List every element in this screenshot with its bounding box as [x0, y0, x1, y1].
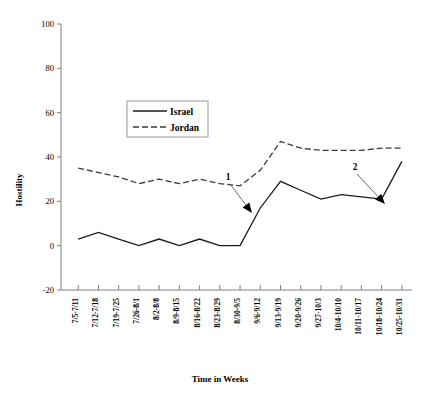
annotation-label: 1: [226, 172, 231, 182]
x-tick-label: 7/5-7/11: [71, 298, 80, 324]
x-tick-label: 8/2-8/8: [152, 298, 161, 320]
chart-legend: Israel Jordan: [127, 101, 208, 137]
x-tick-label: 7/19-7/25: [112, 298, 121, 328]
legend-label-israel: Israel: [170, 107, 194, 117]
y-tick-label: 100: [41, 19, 54, 29]
annotation-label: 2: [353, 162, 358, 172]
y-tick-label: 0: [50, 241, 54, 251]
chart-container: -20020406080100 7/5-7/117/12-7/187/19-7/…: [0, 0, 428, 397]
x-tick-label: 8/9-8/15: [172, 298, 181, 324]
x-tick-label: 8/16-8/22: [193, 298, 202, 328]
x-tick-label: 9/13-9/19: [274, 298, 283, 328]
x-tick-label: 9/27-10/3: [314, 298, 323, 328]
x-tick-label: 7/26-8/1: [132, 298, 141, 324]
x-tick-label: 8/23-8/29: [213, 298, 222, 328]
x-tick-label: 10/25-10/31: [395, 298, 404, 335]
x-tick-label: 9/6-9/12: [253, 298, 262, 324]
x-axis-title: Time in Weeks: [192, 374, 249, 384]
x-tick-label: 7/12-7/18: [91, 298, 100, 328]
x-tick-label: 10/18-10/24: [375, 298, 384, 335]
y-tick-label: 20: [46, 196, 55, 206]
x-tick-label: 9/20-9/26: [294, 298, 303, 328]
chart-background: [0, 0, 428, 397]
y-tick-label: 60: [46, 108, 55, 118]
x-tick-label: 10/11-10/17: [354, 298, 363, 335]
y-tick-label: -20: [43, 285, 54, 295]
x-tick-label: 10/4-10/10: [334, 298, 343, 332]
x-tick-label: 8/30-9/5: [233, 298, 242, 324]
hostility-line-chart: -20020406080100 7/5-7/117/12-7/187/19-7/…: [0, 0, 428, 397]
y-tick-label: 40: [46, 152, 55, 162]
y-axis-title: Hostility: [14, 173, 24, 206]
y-tick-label: 80: [46, 63, 55, 73]
legend-label-jordan: Jordan: [170, 123, 200, 133]
